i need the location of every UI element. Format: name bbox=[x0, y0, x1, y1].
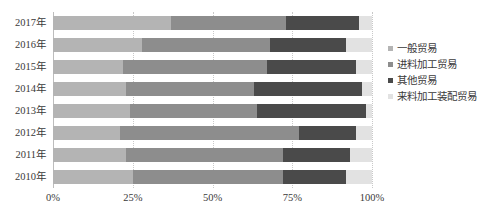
x-axis-label: 50% bbox=[203, 190, 222, 206]
bar-segment bbox=[53, 60, 123, 74]
bar-segment bbox=[346, 170, 372, 184]
bar-row bbox=[53, 82, 372, 96]
bar-segment bbox=[126, 148, 282, 162]
bar-segment bbox=[362, 82, 372, 96]
legend-item[interactable]: 进料加工贸易 bbox=[388, 57, 496, 72]
bar-segment bbox=[53, 82, 126, 96]
bar-segment bbox=[171, 16, 286, 30]
y-axis-label: 2011年 bbox=[15, 148, 46, 162]
bar-segment bbox=[53, 16, 171, 30]
x-axis-label: 0% bbox=[46, 190, 60, 206]
plot-area bbox=[53, 12, 372, 188]
legend-item[interactable]: 来料加工装配贸易 bbox=[388, 89, 496, 104]
bar-segment bbox=[359, 16, 372, 30]
legend-swatch-icon bbox=[388, 78, 393, 83]
bar-segment bbox=[350, 148, 372, 162]
bar-segment bbox=[270, 38, 347, 52]
bar-segment bbox=[126, 82, 254, 96]
bar-series-container bbox=[53, 12, 372, 188]
legend-swatch-icon bbox=[388, 46, 393, 51]
bar-segment bbox=[267, 60, 356, 74]
x-axis-label: 25% bbox=[123, 190, 142, 206]
bar-row bbox=[53, 104, 372, 118]
bar-segment bbox=[254, 82, 362, 96]
legend-label: 其他贸易 bbox=[397, 73, 437, 88]
bar-segment bbox=[133, 170, 283, 184]
bar-segment bbox=[53, 104, 130, 118]
bar-segment bbox=[366, 104, 372, 118]
y-axis-label: 2013年 bbox=[15, 104, 46, 118]
bar-row bbox=[53, 38, 372, 52]
y-axis-label: 2012年 bbox=[15, 126, 46, 140]
bar-segment bbox=[130, 104, 258, 118]
bar-segment bbox=[283, 170, 347, 184]
y-axis-label: 2017年 bbox=[15, 16, 46, 30]
y-axis-label: 2016年 bbox=[15, 38, 46, 52]
bar-segment bbox=[53, 126, 120, 140]
bar-segment bbox=[53, 170, 133, 184]
bar-segment bbox=[123, 60, 267, 74]
bar-segment bbox=[257, 104, 365, 118]
x-axis-tick-labels: 0%25%50%75%100% bbox=[53, 190, 372, 206]
bar-row bbox=[53, 16, 372, 30]
bar-segment bbox=[346, 38, 372, 52]
legend-item[interactable]: 其他贸易 bbox=[388, 73, 496, 88]
bar-segment bbox=[356, 126, 372, 140]
gridline-100pct bbox=[372, 12, 373, 188]
stacked-bar-chart: 2017年2016年2015年2014年2013年2012年2011年2010年… bbox=[0, 0, 498, 212]
y-axis-label: 2015年 bbox=[15, 60, 46, 74]
bar-segment bbox=[120, 126, 299, 140]
bar-row bbox=[53, 126, 372, 140]
bar-segment bbox=[283, 148, 350, 162]
bar-segment bbox=[53, 148, 126, 162]
y-axis-category-labels: 2017年2016年2015年2014年2013年2012年2011年2010年 bbox=[0, 12, 50, 188]
legend-label: 一般贸易 bbox=[397, 41, 437, 56]
bar-row bbox=[53, 148, 372, 162]
x-axis-label: 75% bbox=[283, 190, 302, 206]
bar-segment bbox=[53, 38, 142, 52]
bar-segment bbox=[299, 126, 356, 140]
bar-segment bbox=[286, 16, 359, 30]
bar-row bbox=[53, 60, 372, 74]
y-axis-label: 2010年 bbox=[15, 170, 46, 184]
legend-swatch-icon bbox=[388, 94, 393, 99]
x-axis-label: 100% bbox=[360, 190, 385, 206]
bar-segment bbox=[356, 60, 372, 74]
legend-label: 来料加工装配贸易 bbox=[397, 89, 477, 104]
legend-label: 进料加工贸易 bbox=[397, 57, 457, 72]
bar-segment bbox=[142, 38, 270, 52]
bar-row bbox=[53, 170, 372, 184]
legend-item[interactable]: 一般贸易 bbox=[388, 41, 496, 56]
legend-swatch-icon bbox=[388, 62, 393, 67]
y-axis-label: 2014年 bbox=[15, 82, 46, 96]
chart-legend: 一般贸易进料加工贸易其他贸易来料加工装配贸易 bbox=[388, 41, 496, 105]
